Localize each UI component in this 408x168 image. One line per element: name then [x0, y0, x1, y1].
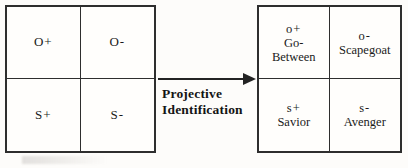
arrow-caption: Projective Identification [162, 86, 258, 119]
right-matrix-cell-scapegoat: o- Scapegoat [330, 7, 401, 79]
arrow-caption-line-1: Projective [162, 86, 258, 102]
cell-code: S- [110, 108, 124, 123]
cell-label-line-1: Savior [277, 115, 310, 129]
arrow-shaft [158, 78, 246, 80]
cell-code: O+ [34, 35, 53, 50]
cell-code: o+ [272, 22, 316, 36]
left-matrix-cell-object-negative: O- [81, 7, 155, 79]
left-matrix: O+ O- S+ S- [5, 5, 156, 153]
right-matrix-cell-savior: s+ Savior [259, 79, 330, 151]
scan-artifact [22, 156, 108, 164]
diagram-canvas: O+ O- S+ S- Projective Identification [0, 0, 408, 168]
cell-code: O- [109, 35, 125, 50]
right-matrix-cell-avenger: s- Avenger [330, 79, 401, 151]
left-matrix-cell-self-negative: S- [81, 79, 155, 151]
right-arrow-icon [158, 73, 257, 85]
arrow-head [243, 73, 256, 85]
cell-code: s+ [277, 101, 310, 115]
cell-code: o- [339, 29, 390, 43]
cell-label-line-1: Scapegoat [339, 43, 390, 57]
cell-label-line-1: Go- [272, 36, 316, 50]
cell-label-line-1: Avenger [344, 115, 386, 129]
right-matrix-cell-go-between: o+ Go- Between [259, 7, 330, 79]
cell-code: S+ [35, 108, 52, 123]
cell-label-line-2: Between [272, 50, 316, 64]
cell-code: s- [344, 101, 386, 115]
arrow-caption-line-2: Identification [162, 102, 258, 118]
left-matrix-cell-object-positive: O+ [7, 7, 81, 79]
right-matrix: o+ Go- Between o- Scapegoat s+ Savior s-… [257, 5, 402, 153]
left-matrix-cell-self-positive: S+ [7, 79, 81, 151]
